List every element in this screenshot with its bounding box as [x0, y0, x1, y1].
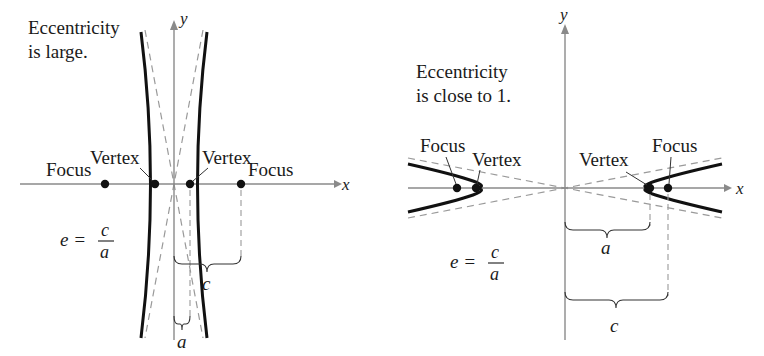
focus-left-label: Focus — [420, 135, 465, 156]
focus-right-point — [664, 184, 672, 192]
focus-left-leader — [446, 157, 456, 184]
vertex-right-leader — [193, 168, 208, 181]
brace-c — [174, 256, 241, 272]
focus-left-point — [453, 184, 461, 192]
formula-numerator: c — [101, 220, 109, 240]
caption-line-1: Eccentricity — [28, 17, 120, 38]
brace-a — [565, 222, 650, 238]
focus-right-point — [237, 180, 245, 188]
formula-numerator: c — [491, 242, 499, 262]
caption-line-2: is close to 1. — [416, 85, 511, 106]
focus-right-label: Focus — [248, 159, 293, 180]
y-axis-arrow-icon — [170, 20, 178, 30]
vertex-right-label: Vertex — [579, 149, 629, 170]
brace-a-label: a — [177, 331, 187, 352]
focus-right-leader — [669, 157, 671, 184]
panel-large-eccentricity: x y Eccentricity is large. Focus Vertex … — [20, 9, 350, 352]
x-axis-label: x — [341, 175, 350, 194]
formula-denominator: a — [490, 264, 499, 284]
vertex-left-point — [472, 184, 480, 192]
vertex-right-point — [186, 180, 194, 188]
focus-left-label: Focus — [46, 159, 91, 180]
hyperbola-eccentricity-figure: x y Eccentricity is large. Focus Vertex … — [0, 0, 764, 356]
caption-line-1: Eccentricity — [416, 61, 508, 82]
focus-left-point — [101, 180, 109, 188]
y-axis-arrow-icon — [561, 24, 569, 34]
formula-denominator: a — [100, 242, 109, 262]
hyperbola-left-branch — [141, 32, 151, 338]
brace-a-label: a — [601, 237, 611, 258]
brace-c-label: c — [610, 315, 619, 336]
x-axis-arrow-icon — [724, 184, 732, 192]
brace-c — [565, 292, 668, 308]
caption-line-2: is large. — [28, 41, 88, 62]
brace-a — [174, 316, 190, 330]
formula-lhs: e = — [60, 229, 86, 250]
x-axis-arrow-icon — [334, 180, 342, 188]
formula-lhs: e = — [450, 251, 476, 272]
vertex-right-point — [646, 184, 654, 192]
y-axis-label: y — [558, 5, 568, 24]
vertex-left-label: Vertex — [90, 147, 140, 168]
vertex-left-label: Vertex — [472, 149, 522, 170]
x-axis-label: x — [735, 179, 744, 198]
brace-c-label: c — [202, 273, 211, 294]
vertex-right-label: Vertex — [202, 147, 252, 168]
vertex-left-point — [151, 180, 159, 188]
panel-eccentricity-close-to-1: x y Eccentricity is close to 1. Focus Ve… — [408, 5, 744, 340]
focus-right-label: Focus — [652, 135, 697, 156]
y-axis-label: y — [178, 9, 188, 28]
